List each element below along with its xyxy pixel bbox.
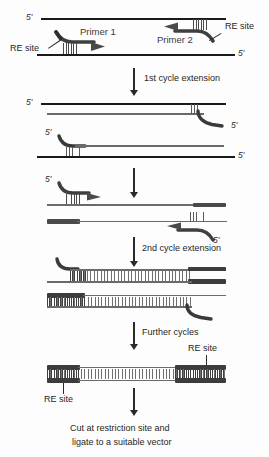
cycle1-lower-template-strand: [37, 156, 235, 158]
flow-arrow-4-head: [130, 344, 138, 350]
template-bottom-strand: [37, 54, 235, 56]
cycle2-product-upper-re-block-top: [188, 267, 226, 272]
flow-arrow-3-head: [130, 261, 138, 267]
cycle2-primer-2-hatch: [190, 212, 204, 221]
step-label-1: 1st cycle extension: [144, 74, 220, 83]
five-prime-cycle1-lower-left: 5': [45, 128, 51, 137]
final-re-block-bottom-right: [175, 378, 226, 383]
flow-arrow-1-head: [130, 90, 138, 96]
conclusion-line-1: Cut at restriction site and: [70, 424, 170, 433]
cycle2-lower-re-block: [47, 219, 80, 224]
flow-arrow-5-head: [130, 410, 138, 416]
cycle2-upper-strand: [47, 204, 204, 206]
five-prime-cycle1-lower-right: 5': [238, 151, 244, 160]
re-site-label-left: RE site: [10, 44, 39, 53]
five-prime-bottom-right: 5': [238, 49, 244, 58]
re-site-label-right: RE site: [225, 22, 254, 31]
cycle2-primer-2-hook-icon: [160, 222, 216, 244]
flow-arrow-3-shaft: [133, 237, 135, 263]
re-site-leader-final-left: [63, 383, 64, 394]
five-prime-cycle1-upper-right: 5': [231, 121, 237, 130]
re-site-label-final-left: RE site: [44, 395, 73, 404]
primer-1-label: Primer 1: [80, 27, 116, 37]
pcr-cloning-diagram: 5' 5' Primer 1 RE site Primer 2 RE site …: [0, 0, 269, 457]
primer-2-label: Primer 2: [157, 35, 193, 45]
cycle1-lower-new-strand: [75, 145, 224, 147]
five-prime-cycle2-upper: 5': [45, 175, 51, 184]
flow-arrow-5-shaft: [133, 388, 135, 412]
primer-1-annealing-hatch: [63, 43, 79, 54]
cycle1-upper-tail-hook-icon: [196, 110, 232, 128]
cycle2-product-upper-bottom-backbone: [47, 281, 192, 283]
conclusion-line-2: ligate to a suitable vector: [72, 438, 172, 447]
cycle2-product-lower-bottom-backbone: [47, 306, 192, 308]
cycle2-upper-re-block: [193, 203, 226, 208]
five-prime-cycle1-upper-left: 5': [26, 98, 32, 107]
step-label-2: 2nd cycle extension: [142, 244, 221, 253]
flow-arrow-2-shaft: [133, 168, 135, 194]
five-prime-top-left: 5': [26, 13, 32, 22]
final-re-block-bottom-left: [47, 378, 80, 383]
cycle1-upper-new-strand: [47, 113, 204, 115]
step-label-3: Further cycles: [142, 328, 199, 337]
cycle2-primer-1-hatch: [66, 194, 82, 204]
cycle2-product-lower-hook-icon: [185, 303, 219, 321]
re-site-label-final-right: RE site: [188, 344, 217, 353]
flow-arrow-4-shaft: [133, 322, 135, 346]
flow-arrow-1-shaft: [133, 68, 135, 92]
primer-2-annealing-hatch: [193, 19, 207, 30]
cycle2-product-upper-re-block-bottom: [188, 279, 226, 284]
flow-arrow-2-head: [130, 192, 138, 198]
